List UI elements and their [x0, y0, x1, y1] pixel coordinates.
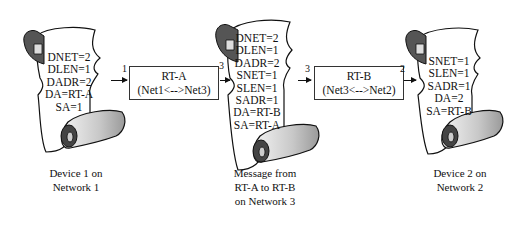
arrow-icon: [220, 80, 230, 81]
caption-line: Network 1: [36, 180, 116, 194]
field-line: SADR=1: [424, 80, 474, 92]
router-rt-b: RT-B (Net3<-->Net2): [314, 66, 404, 100]
field-line: SLEN=1: [424, 67, 474, 79]
field-line: SLEN=1: [232, 82, 282, 94]
field-line: DLEN=1: [44, 63, 94, 75]
caption-line: Network 2: [420, 180, 500, 194]
router-rt-a: RT-A (Net1<-->Net3): [129, 66, 219, 100]
caption-line: on Network 3: [225, 194, 305, 208]
field-line: SA=RT-B: [424, 105, 474, 117]
caption-line: Device 1 on: [36, 166, 116, 180]
field-line: SADR=1: [232, 94, 282, 106]
field-line: DLEN=1: [232, 44, 282, 56]
field-line: DA=2: [424, 92, 474, 104]
hop-label: 3: [219, 60, 224, 71]
field-line: DA=RT-B: [232, 106, 282, 118]
field-line: SNET=1: [424, 55, 474, 67]
arrow-icon: [404, 80, 416, 81]
arrow-icon: [298, 80, 311, 81]
hop-label: 3: [305, 63, 310, 74]
hop-label: 1: [122, 63, 127, 74]
scroll-device1-fields: DNET=2 DLEN=1 DADR=2 DA=RT-A SA=1: [44, 51, 94, 113]
field-line: DADR=2: [44, 76, 94, 88]
caption-message: Message from RT-A to RT-B on Network 3: [225, 166, 305, 208]
router-name: RT-B: [315, 69, 403, 83]
field-line: DNET=2: [232, 32, 282, 44]
hop-label: 2: [400, 63, 405, 74]
caption-line: Device 2 on: [420, 166, 500, 180]
field-line: SNET=1: [232, 69, 282, 81]
field-line: DNET=2: [44, 51, 94, 63]
router-name: RT-A: [130, 69, 218, 83]
field-line: DA=RT-A: [44, 88, 94, 100]
scroll-message-fields: DNET=2 DLEN=1 DADR=2 SNET=1 SLEN=1 SADR=…: [232, 32, 282, 131]
scroll-device2-fields: SNET=1 SLEN=1 SADR=1 DA=2 SA=RT-B: [424, 55, 474, 117]
field-line: SA=RT-A: [232, 119, 282, 131]
field-line: SA=1: [44, 101, 94, 113]
caption-device2: Device 2 on Network 2: [420, 166, 500, 194]
router-link: (Net3<-->Net2): [315, 83, 403, 97]
caption-line: RT-A to RT-B: [225, 180, 305, 194]
arrow-icon: [111, 80, 127, 81]
caption-line: Message from: [225, 166, 305, 180]
router-link: (Net1<-->Net3): [130, 83, 218, 97]
caption-device1: Device 1 on Network 1: [36, 166, 116, 194]
field-line: DADR=2: [232, 57, 282, 69]
